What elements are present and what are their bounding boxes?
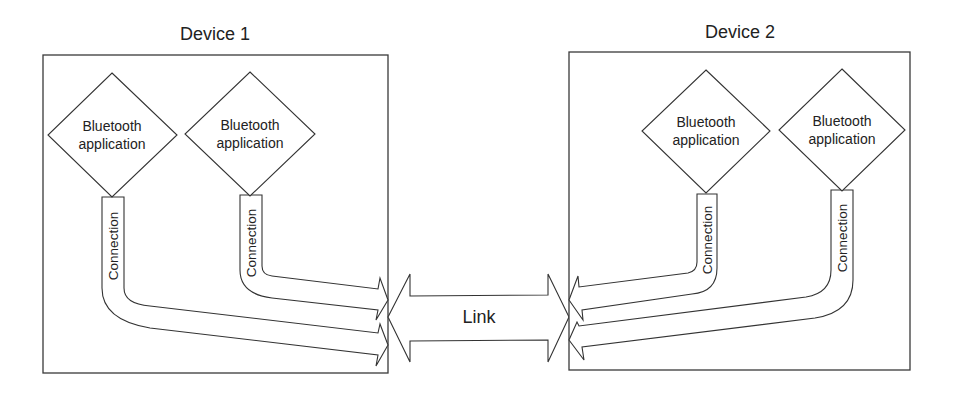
- device-1-title: Device 1: [180, 24, 250, 44]
- device-2: Device 2 Connection Connection Bluetooth…: [569, 22, 910, 370]
- device-2-app-1-label-line1: Bluetooth: [676, 114, 735, 130]
- device-1-connection-2-label: Connection: [244, 209, 259, 277]
- device-2-app-1-label-line2: application: [673, 132, 740, 148]
- device-2-title: Device 2: [705, 22, 775, 42]
- device-1-app-1-label-line2: application: [79, 136, 146, 152]
- device-2-connection-2-label: Connection: [835, 204, 850, 272]
- bluetooth-link-diagram: Device 1 Connection Connection Bluetooth…: [0, 0, 955, 397]
- device-2-app-2-label-line2: application: [809, 131, 876, 147]
- device-2-app-2-label-line1: Bluetooth: [812, 113, 871, 129]
- device-1: Device 1 Connection Connection Bluetooth…: [43, 24, 388, 373]
- device-1-app-1-label-line1: Bluetooth: [82, 118, 141, 134]
- device-1-app-2-label-line2: application: [217, 135, 284, 151]
- device-1-connection-1-label: Connection: [106, 212, 121, 280]
- device-2-connection-1-label: Connection: [700, 206, 715, 274]
- device-1-app-2-label-line1: Bluetooth: [220, 117, 279, 133]
- link-label: Link: [462, 307, 496, 327]
- link: Link: [388, 274, 569, 362]
